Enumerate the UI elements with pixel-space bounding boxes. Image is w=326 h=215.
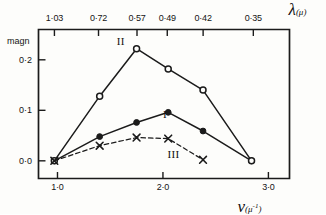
nu-unit: (μ-1) xyxy=(245,204,261,214)
bottom-axis-title: ν(μ-1) xyxy=(238,197,262,215)
y-axis-title: magn xyxy=(7,36,30,46)
data-point-II xyxy=(134,46,140,52)
data-point-I xyxy=(97,134,103,140)
top-axis-tick-label: 0·57 xyxy=(128,13,145,23)
data-point-II xyxy=(97,93,103,99)
top-axis-tick-label: 0·72 xyxy=(90,13,107,23)
nu-symbol: ν xyxy=(238,197,246,215)
curve-label-II: II xyxy=(117,35,125,47)
curve-label-III: III xyxy=(167,148,179,160)
curve-label-I: I xyxy=(163,108,167,120)
y-axis-tick-label: 0·0 xyxy=(8,156,32,166)
top-axis-tick-label: 0·49 xyxy=(159,13,176,23)
plot-frame xyxy=(39,30,290,179)
bottom-axis-tick-label: 3·0 xyxy=(262,182,274,192)
data-point-I xyxy=(134,120,140,126)
bottom-axis-tick-label: 2·0 xyxy=(157,182,169,192)
data-point-II xyxy=(165,66,171,72)
data-point-I xyxy=(200,128,206,134)
top-axis-title: λ(μ) xyxy=(289,0,307,20)
data-point-III xyxy=(96,142,103,149)
lambda-symbol: λ xyxy=(289,0,296,19)
data-point-II xyxy=(200,87,206,93)
bottom-axis-tick-label: 1·0 xyxy=(51,182,63,192)
data-point-II xyxy=(249,158,255,164)
data-point-III xyxy=(200,156,207,163)
nu-unit-open: (μ xyxy=(245,204,253,214)
top-axis-tick-label: 0·35 xyxy=(245,13,262,23)
y-axis-tick-label: 0·2 xyxy=(8,55,32,65)
lambda-unit: (μ) xyxy=(296,7,307,17)
y-axis-tick-label: 0·1 xyxy=(8,105,32,115)
series-line-II xyxy=(54,49,251,161)
figure-chart: 1·030·720·570·490·420·351·02·03·00·20·10… xyxy=(0,0,326,214)
top-axis-tick-label: 1·03 xyxy=(46,13,63,23)
nu-unit-close: ) xyxy=(258,204,261,214)
top-axis-tick-label: 0·42 xyxy=(195,13,212,23)
